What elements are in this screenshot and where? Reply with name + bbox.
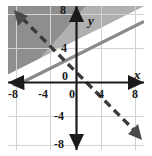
y-axis-label: y [88,14,94,27]
plot-svg [8,6,144,150]
y-tick-label-neg8: -8 [54,138,64,150]
coordinate-plane: 8 4 0 -4 -8 -8 -4 0 4 8 y x [8,6,144,150]
x-tick-label-0: 0 [69,88,75,100]
x-axis-label: x [134,68,141,81]
y-tick-label-0: 0 [62,70,68,82]
y-tick-label-neg4: -4 [54,110,64,122]
x-tick-label-8: 8 [132,88,138,100]
graph-figure: 8 4 0 -4 -8 -8 -4 0 4 8 y x [0,0,152,156]
x-tick-label-neg4: -4 [38,88,48,100]
y-tick-label-8: 8 [60,6,66,16]
x-tick-label-neg8: -8 [8,88,18,100]
x-tick-label-4: 4 [98,88,104,100]
y-tick-label-4: 4 [61,42,67,54]
